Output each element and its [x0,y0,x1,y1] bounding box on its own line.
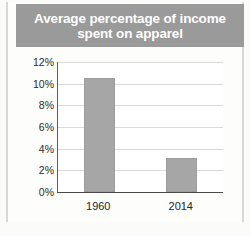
y-axis-tick-label: 8% [10,99,54,111]
x-axis: 1960 2014 [57,200,222,222]
y-axis-tick-label: 4% [10,143,54,155]
gridline [58,84,223,85]
x-axis-tick-label: 1960 [86,200,110,212]
x-axis-tick-label: 2014 [169,200,193,212]
plot-area [57,62,223,193]
y-axis-tick-label: 10% [10,78,54,90]
gridline [58,170,223,171]
chart-title: Average percentage of income spent on ap… [28,11,232,41]
gridline [58,105,223,106]
chart-title-line-2: spent on apparel [34,26,226,41]
bar [84,78,115,192]
gridline [58,127,223,128]
chart-figure: Average percentage of income spent on ap… [0,0,250,236]
y-axis-tick-label: 2% [10,164,54,176]
chart-title-line-1: Average percentage of income [34,11,226,26]
gridline [58,62,223,63]
y-axis: 12% 10% 8% 6% 4% 2% 0% [10,50,54,198]
y-axis-tick-label: 12% [10,56,54,68]
chart-title-banner: Average percentage of income spent on ap… [16,4,244,47]
y-axis-tick-label: 0% [10,186,54,198]
gridline [58,149,223,150]
plot-wrapper: 12% 10% 8% 6% 4% 2% 0% 1960 2014 [0,50,250,222]
bar [166,158,197,192]
y-axis-tick-label: 6% [10,121,54,133]
